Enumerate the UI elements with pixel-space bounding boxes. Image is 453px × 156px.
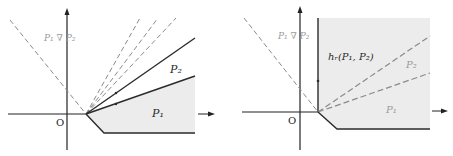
x-axis-arrow-icon bbox=[208, 112, 215, 117]
left-diagram: P₁ ∇ P₂ P₂ P₁ O bbox=[0, 0, 226, 156]
widen-label: P₁ ∇ P₂ bbox=[278, 32, 309, 41]
hull-label: hᵣ(P₁, P₂) bbox=[328, 52, 374, 62]
p1-label: P₁ bbox=[386, 105, 397, 115]
origin-label: O bbox=[56, 118, 64, 128]
p2-label: P₂ bbox=[406, 60, 417, 70]
right-diagram: P₁ ∇ P₂ hᵣ(P₁, P₂) P₂ P₁ O bbox=[226, 0, 452, 156]
boundary-marker bbox=[317, 80, 320, 83]
widen-label: P₁ ∇ P₂ bbox=[44, 34, 75, 43]
ray-marker bbox=[115, 103, 117, 105]
origin-label: O bbox=[288, 116, 296, 126]
y-axis-arrow-icon bbox=[298, 6, 303, 13]
ray-marker bbox=[115, 92, 117, 94]
y-axis-arrow-icon bbox=[65, 8, 70, 15]
left-diagram-canvas bbox=[0, 0, 226, 156]
p1-label: P₁ bbox=[152, 108, 164, 119]
x-axis-arrow-icon bbox=[441, 109, 448, 114]
right-diagram-canvas bbox=[226, 0, 453, 156]
p2-label: P₂ bbox=[170, 64, 182, 75]
